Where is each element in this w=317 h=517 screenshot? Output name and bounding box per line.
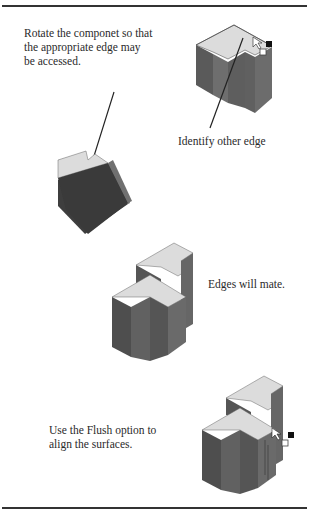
mated-blocks-figure	[112, 243, 193, 361]
rotated-block-figure	[58, 151, 132, 234]
handle-empty-icon	[260, 49, 266, 55]
bottom-rule	[2, 507, 307, 509]
l-block-figure	[196, 25, 272, 113]
handle-filled-icon	[266, 41, 272, 47]
illustrations	[0, 0, 317, 517]
handle-empty-icon	[282, 440, 288, 446]
handle-filled-icon	[288, 432, 294, 438]
flush-blocks-figure	[202, 376, 294, 494]
